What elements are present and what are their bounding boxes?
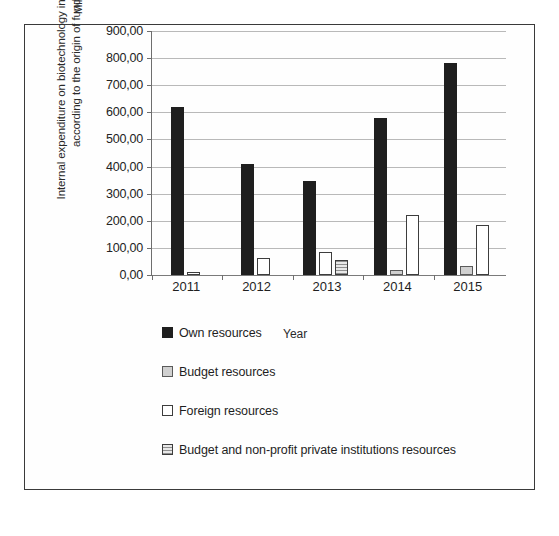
y-tick-label: 100,00 — [106, 241, 143, 255]
black-filled-swatch — [162, 327, 173, 338]
bar — [406, 215, 419, 275]
bar-series-container — [152, 31, 504, 275]
y-axis-title: Millions of PLN — [72, 0, 88, 41]
x-tick-label: 2015 — [453, 279, 482, 294]
y-tick-label: 400,00 — [106, 160, 143, 174]
plot-wrapper: 0,00100,00200,00300,00400,00500,00600,00… — [89, 31, 533, 321]
bar — [187, 272, 200, 275]
bar — [374, 118, 387, 275]
legend-item: Own resources — [162, 325, 462, 341]
bar — [460, 266, 473, 275]
y-tick-label: 700,00 — [106, 78, 143, 92]
plot-area — [151, 31, 504, 275]
y-tick-label: 900,00 — [106, 24, 143, 38]
x-tick-label: 2012 — [242, 279, 271, 294]
figure-frame: Internal expenditure on biotechnology in… — [24, 24, 535, 490]
bar-group — [222, 31, 292, 275]
white-swatch — [162, 405, 173, 416]
bar — [444, 63, 457, 275]
bar — [319, 252, 332, 275]
bar — [303, 181, 316, 275]
y-tick-label: 800,00 — [106, 51, 143, 65]
bar — [390, 270, 403, 275]
bar-group — [434, 31, 504, 275]
x-tick-label: 2011 — [172, 279, 200, 294]
legend-item: Budget and non-profit private institutio… — [162, 442, 462, 458]
legend-item-label: Budget and non-profit private institutio… — [179, 442, 456, 458]
bar — [241, 164, 254, 275]
hatched-gray-swatch — [162, 444, 173, 455]
y-tick-label: 200,00 — [106, 214, 143, 228]
x-tick-label: 2014 — [383, 279, 412, 294]
legend-item-label: Foreign resources — [179, 403, 278, 419]
bar-group — [152, 31, 222, 275]
y-tick-label: 600,00 — [106, 105, 143, 119]
y-tick-label: 300,00 — [106, 187, 143, 201]
bar — [335, 260, 348, 275]
x-axis-tick-labels: 20112012201320142015 — [151, 279, 503, 303]
bar — [257, 258, 270, 275]
bar-group — [363, 31, 433, 275]
gridline — [152, 275, 506, 276]
y-tick-label: 0,00 — [119, 268, 143, 282]
legend-item-label: Budget resources — [179, 364, 275, 380]
x-tick-label: 2013 — [313, 279, 342, 294]
bar-group — [293, 31, 363, 275]
legend-item-label: Own resources — [179, 325, 262, 341]
light-gray-swatch — [162, 366, 173, 377]
legend-item: Foreign resources — [162, 403, 462, 419]
legend-item: Budget resources — [162, 364, 462, 380]
chart-legend: Own resourcesBudget resourcesForeign res… — [162, 325, 462, 481]
y-axis-tick-labels: 0,00100,00200,00300,00400,00500,00600,00… — [89, 31, 147, 275]
bar — [476, 225, 489, 275]
bar — [171, 107, 184, 275]
y-tick-label: 500,00 — [106, 132, 143, 146]
